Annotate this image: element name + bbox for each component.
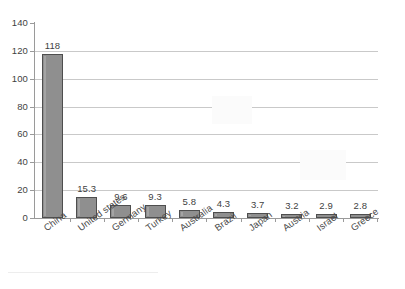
y-axis-tick-mark	[30, 162, 34, 163]
bar-chart: 020406080100120140 11815.39.69.35.84.33.…	[0, 0, 405, 289]
y-axis-tick-mark	[30, 134, 34, 135]
bar-highlight	[215, 214, 217, 216]
x-axis-tick-mark	[343, 219, 344, 222]
y-axis-tick-label: 100	[2, 74, 28, 84]
gridline	[34, 107, 378, 108]
y-axis-tick-label: 140	[2, 18, 28, 28]
x-axis-tick-mark	[172, 219, 173, 222]
y-axis-tick-mark	[30, 190, 34, 191]
y-axis-tick-label: 60	[2, 129, 28, 139]
x-axis-tick-mark	[138, 219, 139, 222]
x-axis-tick-mark	[309, 219, 310, 222]
x-axis-tick-mark	[377, 219, 378, 222]
y-axis-line	[34, 22, 35, 219]
bar-highlight	[78, 199, 80, 216]
y-axis-tick-labels: 020406080100120140	[0, 0, 28, 289]
x-axis-tick-mark	[70, 219, 71, 222]
y-axis-tick-mark	[30, 23, 34, 24]
x-axis-tick-mark	[275, 219, 276, 222]
scan-artifact-smudge	[212, 96, 252, 124]
bar-highlight	[44, 56, 46, 216]
bar-highlight	[249, 215, 251, 216]
gridline	[34, 79, 378, 80]
scan-artifact-smudge	[300, 150, 346, 180]
x-axis-tick-mark	[104, 219, 105, 222]
y-axis-tick-mark	[30, 79, 34, 80]
scan-artifact-line	[8, 272, 158, 273]
bar-value-label: 118	[33, 41, 73, 51]
x-axis-tick-mark	[206, 219, 207, 222]
y-axis-tick-label: 20	[2, 185, 28, 195]
y-axis-tick-label: 120	[2, 46, 28, 56]
bar-highlight	[181, 212, 183, 216]
gridline	[34, 134, 378, 135]
y-axis-tick-mark	[30, 218, 34, 219]
y-axis-tick-label: 0	[2, 213, 28, 223]
y-axis-tick-mark	[30, 51, 34, 52]
bar	[42, 54, 63, 218]
x-axis-tick-mark	[241, 219, 242, 222]
y-axis-tick-mark	[30, 107, 34, 108]
y-axis-tick-label: 80	[2, 102, 28, 112]
gridline	[34, 51, 378, 52]
y-axis-tick-label: 40	[2, 157, 28, 167]
